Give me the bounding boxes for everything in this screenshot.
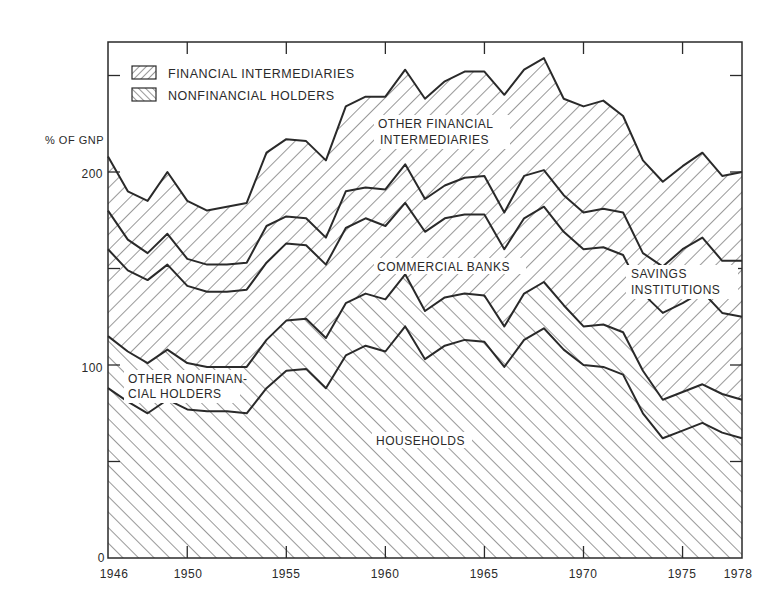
legend-swatch-nonfinancial [132,88,156,101]
label-commercial-banks: COMMERCIAL BANKS [377,260,510,274]
x-tick-1975: 1975 [668,567,697,581]
x-tick-1965: 1965 [470,567,499,581]
y-tick-0: 0 [98,551,105,565]
label-other-financial-2: INTERMEDIARIES [380,133,489,147]
legend: FINANCIAL INTERMEDIARIES NONFINANCIAL HO… [132,66,355,103]
legend-swatch-financial [132,66,156,79]
label-other-financial: OTHER FINANCIAL [378,117,494,131]
y-tick-200: 200 [81,167,103,181]
x-tick-1970: 1970 [569,567,598,581]
label-households: HOUSEHOLDS [376,434,465,448]
label-other-nonfinancial: OTHER NONFINAN- [128,372,248,386]
y-axis-title: % OF GNP [45,134,104,146]
label-savings: SAVINGS [631,267,687,281]
label-savings-2: INSTITUTIONS [631,283,720,297]
y-tick-100: 100 [81,361,103,375]
legend-label-nonfinancial: NONFINANCIAL HOLDERS [168,89,335,103]
label-other-nonfinancial-2: CIAL HOLDERS [128,387,222,401]
x-axis-labels: 1946 1950 1955 1960 1965 1970 1975 1978 [100,567,753,581]
legend-label-financial: FINANCIAL INTERMEDIARIES [168,67,355,81]
x-tick-1946: 1946 [100,567,129,581]
x-tick-1960: 1960 [371,567,400,581]
x-tick-1955: 1955 [272,567,301,581]
stacked-area-chart: % OF GNP 200 100 0 1946 1950 1955 1960 1… [0,0,765,607]
x-tick-1950: 1950 [174,567,203,581]
x-tick-1978: 1978 [724,567,753,581]
